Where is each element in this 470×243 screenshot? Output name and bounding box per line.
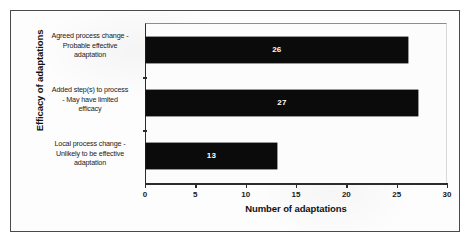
x-axis-tick-labels: 051015202530	[145, 190, 447, 202]
x-axis-tick-label-4: 20	[333, 190, 359, 199]
x-axis-tick-5	[397, 183, 398, 188]
category-label-0-line-0: Agreed process change -	[35, 31, 145, 41]
figure-frame: Efficacy of adaptations Agreed process c…	[10, 10, 460, 232]
x-axis-tick-label-5: 25	[384, 190, 410, 199]
x-axis-tick-label-6: 30	[434, 190, 460, 199]
x-axis-tick-0	[145, 183, 146, 188]
bar-value-1: 27	[146, 90, 418, 116]
category-label-1-line-1: - May have limited	[35, 95, 145, 105]
x-axis-tick-label-1: 5	[182, 190, 208, 199]
x-axis-tick-label-0: 0	[132, 190, 158, 199]
category-label-2: Local process change - Unlikely to be ef…	[35, 139, 145, 168]
category-label-1-line-0: Added step(s) to process	[35, 85, 145, 95]
category-label-2-line-0: Local process change -	[35, 139, 145, 149]
category-axis-labels: Agreed process change - Probable effecti…	[35, 23, 145, 183]
bar-value-0: 26	[146, 37, 408, 63]
plot-area: 26 27 13	[145, 23, 447, 183]
category-label-0-line-2: adaptation	[35, 50, 145, 60]
x-axis-tick-4	[346, 183, 347, 188]
x-axis-title: Number of adaptations	[145, 203, 447, 214]
x-axis-ticks	[145, 183, 447, 188]
category-label-1-line-2: efficacy	[35, 104, 145, 114]
category-label-2-line-2: adaptation	[35, 158, 145, 168]
x-axis-tick-label-3: 15	[283, 190, 309, 199]
plot-inner: 26 27 13	[146, 24, 446, 183]
category-label-0: Agreed process change - Probable effecti…	[35, 31, 145, 60]
x-axis-tick-2	[246, 183, 247, 188]
x-axis-tick-label-2: 10	[233, 190, 259, 199]
x-axis-tick-6	[447, 183, 448, 188]
x-axis-tick-1	[195, 183, 196, 188]
category-label-1: Added step(s) to process - May have limi…	[35, 85, 145, 114]
category-label-0-line-1: Probable effective	[35, 41, 145, 51]
category-label-2-line-1: Unlikely to be effective	[35, 149, 145, 159]
bar-value-2: 13	[146, 143, 277, 169]
bar-row: 26	[146, 24, 446, 77]
bar-row: 27	[146, 77, 446, 130]
x-axis-tick-3	[296, 183, 297, 188]
bar-row: 13	[146, 130, 446, 183]
